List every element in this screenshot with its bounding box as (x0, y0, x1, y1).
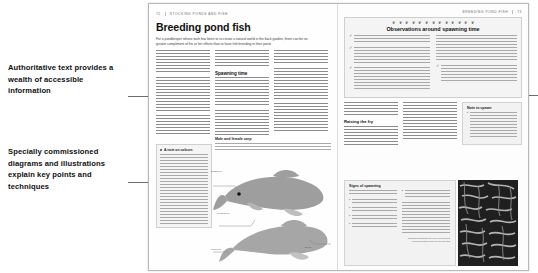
screenshot-root: Authoritative text provides a wealth of … (0, 0, 538, 273)
text-block (274, 50, 328, 65)
check-icon: ✓ (349, 67, 352, 91)
fish-label-pelvic: Pelvic fin (211, 248, 237, 251)
risks-bullet-text (352, 215, 397, 221)
fish-icon: ❦ (444, 21, 449, 24)
risks-column-right: • Spawning goldfish are seen as a brown … (402, 190, 450, 243)
text-block (215, 77, 269, 107)
body-columns: Spawning time (156, 50, 331, 139)
observations-column-left: ✓ ✓ ✓ (349, 35, 430, 93)
check-icon: ✓ (349, 35, 352, 44)
folio-divider (512, 10, 513, 14)
check-item-text (354, 47, 430, 65)
bullet-icon: • (467, 112, 468, 139)
risks-bullet: • (349, 215, 397, 221)
text-block (274, 103, 328, 133)
observations-text (436, 35, 517, 62)
photo-credit: Spawning goldfish are seen as a brown co… (402, 237, 450, 243)
side-box-heading: Note to spawn (467, 106, 517, 110)
callout-text (160, 154, 208, 226)
bullet-icon: • (402, 190, 403, 199)
bullet-icon: • (349, 215, 350, 221)
text-block (274, 68, 328, 101)
right-page: BREEDING POND FISH 73 ❦ ❦ ❦ ❦ ❦ ❦ ❦ ❦ ❦ … (338, 4, 528, 270)
left-folio: 72 (156, 12, 161, 16)
observations-box: ❦ ❦ ❦ ❦ ❦ ❦ ❦ ❦ ❦ ❦ ❦ ❦ ❦ Observations a… (344, 17, 522, 98)
text-block (156, 50, 210, 74)
side-box-bullet-text (470, 112, 517, 139)
fish-icon: ❦ (411, 21, 416, 24)
folio-divider (165, 12, 166, 16)
risks-bullet-text (352, 207, 397, 213)
fish-icon: ❦ (431, 21, 436, 24)
risks-bullet: • (349, 223, 397, 229)
caption-text (215, 143, 331, 152)
right-running-head: BREEDING POND FISH 73 (344, 9, 522, 15)
risks-bullet-text (352, 223, 397, 229)
risks-bullet: • (349, 207, 397, 213)
check-icon: ✓ (349, 47, 352, 65)
observations-column-right: ✓ (436, 35, 517, 93)
risks-bullet: • (349, 199, 397, 205)
risks-bullet-text (352, 199, 397, 205)
risks-box-heading: Signs of spawning (349, 184, 451, 188)
fish-icon: ❦ (437, 21, 442, 24)
standfirst: For a pondkeeper whose wish has been to … (156, 37, 308, 46)
bullet-icon: • (349, 199, 350, 205)
check-item: ✓ (349, 47, 430, 65)
body-column-1 (156, 50, 210, 139)
photo-image (458, 180, 518, 266)
text-block (344, 126, 398, 147)
check-item: ✓ (349, 35, 430, 44)
fish-icon: ❦ (470, 21, 475, 24)
risks-right-text (402, 202, 450, 235)
body-column-3 (274, 50, 328, 139)
fish-artwork: Dorsal fin Pectoral fin Anal fin Pelvic … (211, 156, 333, 264)
fish-icon-row: ❦ ❦ ❦ ❦ ❦ ❦ ❦ ❦ ❦ ❦ ❦ ❦ ❦ (349, 21, 517, 24)
fish-icon: ❦ (391, 21, 396, 24)
observations-title: Observations around spawning time (349, 26, 517, 32)
check-item: ✓ (436, 65, 517, 83)
fish-icon: ❦ (398, 21, 403, 24)
text-block (215, 110, 269, 137)
check-item-text (441, 65, 517, 83)
text-block (156, 115, 210, 136)
colour-note-callout: A note on colours (156, 144, 212, 228)
square-bullet-icon (160, 149, 162, 151)
fish-icon: ❦ (404, 21, 409, 24)
risks-intro (349, 190, 397, 196)
fish-icon: ❦ (424, 21, 429, 24)
left-running-head: 72 STOCKING PONDS AND FISH (156, 11, 331, 17)
book-spread: 72 STOCKING PONDS AND FISH Breeding pond… (148, 3, 529, 271)
bottom-zone: Signs of spawning • • (344, 180, 522, 266)
fish-icon: ❦ (417, 21, 422, 24)
annotation-leader-line-2 (128, 182, 150, 183)
check-item-text (354, 67, 430, 91)
annotation-art-callout: Specially commissioned diagrams and illu… (8, 146, 128, 192)
risks-column-left: • • • • (349, 190, 397, 243)
bullet-icon: • (349, 223, 350, 229)
text-block (156, 77, 210, 113)
fish-label-anal: Anal fin (303, 246, 333, 249)
right-folio: 73 (517, 10, 522, 14)
fish-icon: ❦ (463, 21, 468, 24)
text-block (403, 102, 457, 141)
left-running-head-label: STOCKING PONDS AND FISH (170, 12, 228, 16)
body-column-2: Spawning time (215, 50, 269, 139)
signs-of-spawning-box: Signs of spawning • • (344, 180, 456, 266)
mid-column-2 (403, 102, 457, 150)
subheading-male-female-carp: Male and female carp (215, 137, 331, 141)
mid-columns: Raising the fry Note to spawn • (344, 102, 522, 150)
check-item: ✓ (349, 67, 430, 91)
heading-raising-the-fry: Raising the fry (344, 119, 398, 124)
callout-heading: A note on colours (160, 148, 208, 152)
risks-bullet: • (402, 190, 450, 199)
callout-heading-label: A note on colours (164, 148, 193, 152)
annotation-text-callout: Authoritative text provides a wealth of … (8, 62, 128, 97)
check-icon: ✓ (436, 65, 439, 83)
risks-bullet-text (405, 190, 450, 199)
side-box-column: Note to spawn • (462, 102, 522, 150)
subheading-spawning-time: Spawning time (215, 71, 269, 76)
fish-label-dorsal: Dorsal fin (211, 170, 241, 173)
text-block (344, 102, 398, 117)
note-to-spawn-box: Note to spawn • (462, 102, 522, 145)
